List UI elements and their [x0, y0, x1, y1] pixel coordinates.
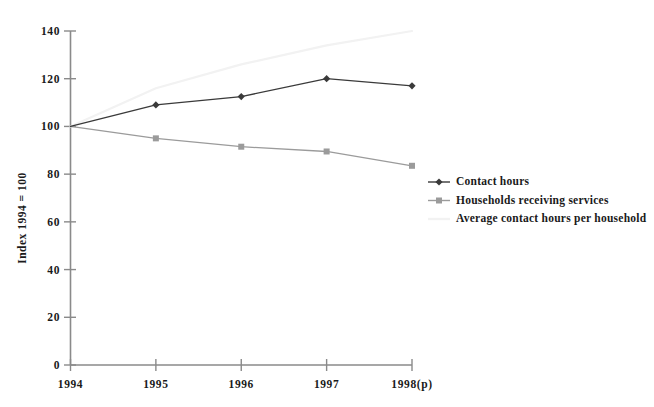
- legend-label: Contact hours: [456, 175, 529, 187]
- data-point: [238, 93, 245, 100]
- y-axis-title: Index 1994 = 100: [16, 172, 28, 264]
- series-group: [71, 31, 416, 169]
- x-tick-label: 1996: [229, 378, 254, 390]
- x-tick-label: 1997: [314, 378, 339, 390]
- x-tick-label: 1998(p): [391, 378, 432, 391]
- series-2: [71, 31, 413, 126]
- series-line: [71, 31, 413, 126]
- legend-label: Households receiving services: [456, 194, 609, 207]
- legend-item-2[interactable]: Average contact hours per household: [428, 212, 647, 225]
- x-axis: 19941995199619971998(p): [58, 359, 433, 391]
- legend-item-1[interactable]: Households receiving services: [428, 194, 609, 207]
- y-tick-label: 40: [47, 264, 60, 276]
- data-point: [324, 148, 330, 154]
- series-1: [71, 126, 416, 168]
- y-tick-label: 100: [41, 120, 60, 132]
- series-0: [71, 75, 416, 126]
- line-chart: 020406080100120140 Index 1994 = 100 1994…: [0, 0, 654, 407]
- data-point: [408, 82, 415, 89]
- y-axis: 020406080100120140 Index 1994 = 100: [16, 25, 76, 371]
- data-point: [323, 75, 330, 82]
- legend-item-0[interactable]: Contact hours: [428, 175, 529, 187]
- data-point: [409, 163, 415, 169]
- data-point: [238, 144, 244, 150]
- y-tick-label: 120: [41, 73, 60, 85]
- legend-label: Average contact hours per household: [456, 212, 647, 225]
- y-tick-label: 80: [47, 168, 60, 180]
- chart-canvas: 020406080100120140 Index 1994 = 100 1994…: [0, 0, 654, 407]
- y-tick-label: 60: [47, 216, 60, 228]
- legend-swatch-marker: [435, 178, 442, 185]
- data-point: [153, 135, 159, 141]
- legend-swatch-marker: [436, 198, 442, 204]
- x-tick-label: 1995: [143, 378, 168, 390]
- y-tick-label: 140: [41, 25, 60, 37]
- x-tick-label: 1994: [58, 378, 83, 390]
- x-tick-group: 19941995199619971998(p): [58, 359, 433, 391]
- y-tick-label: 0: [54, 359, 60, 371]
- chart-legend: Contact hoursHouseholds receiving servic…: [428, 175, 647, 225]
- data-point: [152, 101, 159, 108]
- y-tick-label: 20: [47, 311, 60, 323]
